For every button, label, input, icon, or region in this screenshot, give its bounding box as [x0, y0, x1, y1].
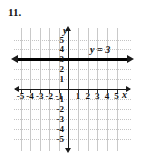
y-tick-label: 2	[50, 65, 64, 74]
gridline-horizontal	[14, 79, 131, 80]
y-tick-label: 1	[50, 75, 64, 84]
y-tick-label: -4	[47, 125, 64, 134]
graph-figure: 11.	[0, 0, 145, 158]
gridline-horizontal	[14, 40, 131, 41]
x-tick-label: -1	[50, 92, 67, 101]
gridline-horizontal	[14, 49, 131, 50]
gridline-horizontal	[14, 129, 131, 130]
y-axis	[68, 29, 70, 150]
gridline-horizontal	[14, 119, 131, 120]
problem-number: 11.	[8, 6, 21, 18]
graph-line-left-arrow-icon	[11, 55, 18, 63]
x-tick-label: 5	[111, 92, 122, 101]
y-tick-label: 5	[50, 36, 64, 45]
y-tick-label: -5	[47, 135, 64, 144]
graph-line-y-equals-3	[18, 58, 127, 60]
equation-label: y = 3	[90, 45, 110, 55]
y-tick-label: 3	[50, 55, 64, 64]
graph-line-right-arrow-icon	[127, 55, 134, 63]
y-tick-label: -3	[47, 115, 64, 124]
x-axis	[15, 89, 130, 91]
y-axis-down-arrow-icon	[65, 148, 71, 153]
gridline-horizontal	[14, 109, 131, 110]
y-tick-label: 4	[50, 45, 64, 54]
x-axis-label: x	[122, 90, 127, 100]
gridline-horizontal	[14, 139, 131, 140]
y-tick-label: -2	[47, 105, 64, 114]
gridline-horizontal	[14, 69, 131, 70]
coordinate-plane: y = 3 y x 5 4 3 2 1 -1 -2 -3 -4 -5 -5 -4…	[14, 28, 131, 151]
